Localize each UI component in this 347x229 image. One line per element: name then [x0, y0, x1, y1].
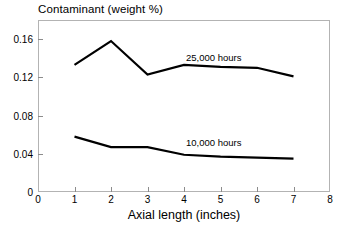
- x-axis-tick-label: 4: [181, 194, 187, 205]
- x-axis-tick-label: 0: [35, 194, 41, 205]
- x-axis-tick-label: 1: [72, 194, 78, 205]
- y-axis-tick-mark: [38, 154, 43, 155]
- x-axis-tick-label: 5: [218, 194, 224, 205]
- y-axis-tick-label: 0.04: [14, 148, 33, 159]
- chart-title: Contaminant (weight %): [38, 3, 163, 15]
- y-axis-tick-mark: [38, 116, 43, 117]
- x-axis-tick-label: 3: [145, 194, 151, 205]
- x-axis-tick-label: 6: [254, 194, 260, 205]
- series-label-10000-hours: 10,000 hours: [186, 137, 241, 148]
- data-series-line: [75, 41, 294, 76]
- y-axis-tick-label: 0: [27, 187, 33, 198]
- data-series-layer: [38, 20, 330, 192]
- y-axis-tick-label: 0.12: [14, 72, 33, 83]
- y-axis-tick-label: 0.16: [14, 34, 33, 45]
- x-axis-tick-label: 8: [327, 194, 333, 205]
- chart-figure: Contaminant (weight %) 00.040.080.120.16…: [0, 0, 347, 229]
- y-axis-tick-mark: [38, 77, 43, 78]
- y-axis-tick-mark: [38, 39, 43, 40]
- y-axis-tick-label: 0.08: [14, 110, 33, 121]
- series-label-25000-hours: 25,000 hours: [186, 52, 241, 63]
- y-axis-tick-labels: 00.040.080.120.16: [0, 20, 33, 192]
- x-axis-tick-label: 2: [108, 194, 114, 205]
- x-axis-tick-label: 7: [291, 194, 297, 205]
- data-series-line: [75, 137, 294, 159]
- x-axis-title: Axial length (inches): [38, 208, 330, 222]
